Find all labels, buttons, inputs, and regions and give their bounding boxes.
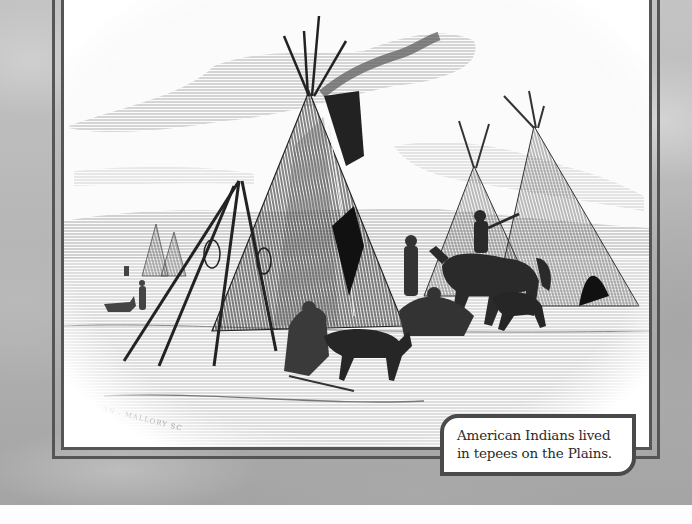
tepee-camp-engraving: KILBURN - MALLORY SC [64,0,649,447]
caption-line-1: American Indians lived [457,426,624,444]
caption-line-2: in tepees on the Plains. [457,444,624,462]
illustration-frame: KILBURN - MALLORY SC [61,0,652,450]
page-bottom-margin [0,505,692,524]
caption-box: American Indians lived in tepees on the … [440,414,636,476]
